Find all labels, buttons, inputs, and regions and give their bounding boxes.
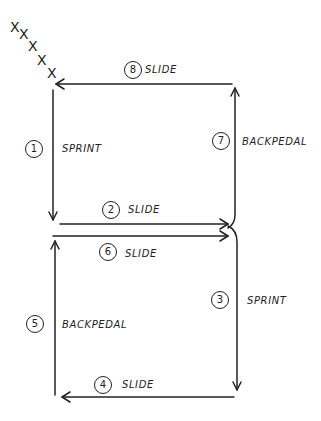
start-mark: X xyxy=(47,66,57,80)
step-label-4: SLIDE xyxy=(122,379,154,390)
step-number-3: 3 xyxy=(211,291,229,309)
step-number-2: 2 xyxy=(102,201,120,219)
step-number-1: 1 xyxy=(25,140,43,158)
step-number-8: 8 xyxy=(124,61,142,79)
step-label-3: SPRINT xyxy=(247,295,286,306)
step-label-8: SLIDE xyxy=(145,64,177,75)
step-number-6: 6 xyxy=(99,243,117,261)
step-label-2: SLIDE xyxy=(128,204,160,215)
start-mark: X xyxy=(28,39,38,53)
step-number-4: 4 xyxy=(94,376,112,394)
step-number-5: 5 xyxy=(26,315,44,333)
step-label-7: BACKPEDAL xyxy=(242,136,307,147)
path-step-3 xyxy=(228,226,237,390)
step-label-5: BACKPEDAL xyxy=(62,319,127,330)
drill-diagram: X X X X X 8 SLIDE 1 SPRINT 7 BACKPEDAL 2… xyxy=(0,0,321,421)
step-label-6: SLIDE xyxy=(125,248,157,259)
step-label-1: SPRINT xyxy=(62,143,101,154)
start-mark: X xyxy=(37,53,47,67)
path-step-7 xyxy=(228,88,235,228)
step-number-7: 7 xyxy=(212,132,230,150)
